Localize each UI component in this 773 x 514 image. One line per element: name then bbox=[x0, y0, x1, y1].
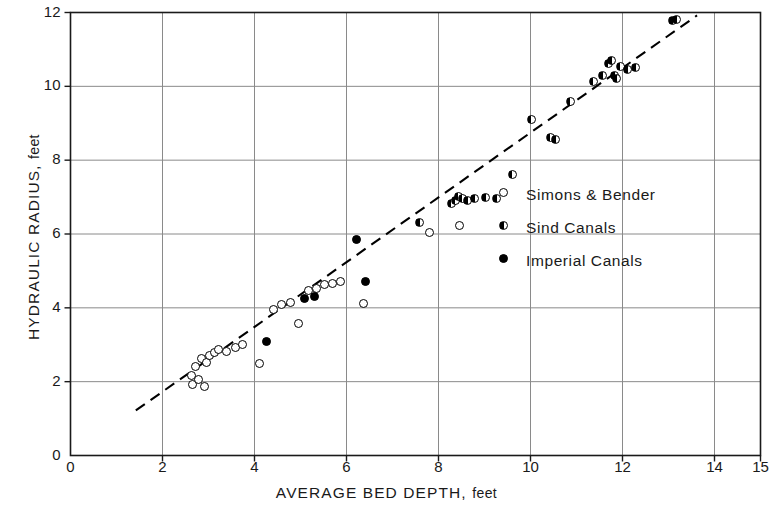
x-axis-title: AVERAGE BED DEPTH, feet bbox=[0, 484, 773, 502]
data-point bbox=[415, 218, 424, 227]
data-point bbox=[294, 319, 303, 328]
y-tick-label: 4 bbox=[35, 298, 61, 315]
y-tick-label: 0 bbox=[35, 446, 61, 463]
data-point bbox=[672, 15, 681, 24]
chart-figure: AVERAGE BED DEPTH, feet HYDRAULIC RADIUS… bbox=[0, 0, 773, 514]
x-tick-label: 8 bbox=[424, 458, 454, 475]
x-tick-label: 6 bbox=[332, 458, 362, 475]
legend-marker-glyph bbox=[499, 254, 508, 263]
x-axis-title-main: AVERAGE BED DEPTH, bbox=[276, 484, 467, 501]
x-tick-label: 12 bbox=[608, 458, 638, 475]
y-tick-label: 2 bbox=[35, 372, 61, 389]
data-point bbox=[262, 337, 271, 346]
data-point bbox=[607, 56, 616, 65]
legend-label: Imperial Canals bbox=[526, 252, 643, 270]
legend-marker-icon bbox=[498, 187, 514, 203]
data-point bbox=[551, 135, 560, 144]
legend-marker-glyph bbox=[499, 221, 508, 230]
x-tick-label: 10 bbox=[516, 458, 546, 475]
legend-item-simons-bender: Simons & Bender bbox=[498, 178, 738, 211]
x-tick-label: 2 bbox=[148, 458, 178, 475]
data-point bbox=[310, 292, 319, 301]
y-tick-label: 10 bbox=[35, 76, 61, 93]
data-point bbox=[566, 97, 575, 106]
legend-marker-glyph bbox=[499, 188, 508, 197]
data-point bbox=[300, 294, 309, 303]
data-point bbox=[200, 382, 209, 391]
data-point bbox=[286, 298, 295, 307]
data-point bbox=[255, 359, 264, 368]
x-tick-label: 14 bbox=[700, 458, 730, 475]
data-point bbox=[470, 194, 479, 203]
y-tick-label: 6 bbox=[35, 224, 61, 241]
x-tick-label: 15 bbox=[746, 458, 773, 475]
y-tick-label: 8 bbox=[35, 150, 61, 167]
x-axis-title-units: feet bbox=[472, 485, 497, 501]
chart-legend: Simons & BenderSind CanalsImperial Canal… bbox=[498, 178, 738, 277]
data-point bbox=[527, 115, 536, 124]
legend-item-imperial-canals: Imperial Canals bbox=[498, 244, 738, 277]
x-tick-label: 4 bbox=[240, 458, 270, 475]
legend-marker-icon bbox=[498, 253, 514, 269]
legend-marker-icon bbox=[498, 220, 514, 236]
data-point bbox=[425, 228, 434, 237]
legend-item-sind-canals: Sind Canals bbox=[498, 211, 738, 244]
data-point bbox=[631, 63, 640, 72]
data-point bbox=[589, 77, 598, 86]
y-tick-label: 12 bbox=[35, 3, 61, 20]
legend-label: Sind Canals bbox=[526, 219, 616, 237]
legend-label: Simons & Bender bbox=[526, 186, 656, 204]
